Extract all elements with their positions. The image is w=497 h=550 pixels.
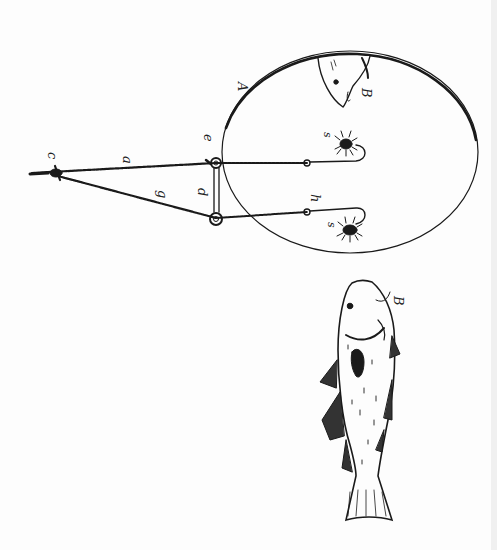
label-e: e bbox=[201, 134, 216, 142]
label-g: g bbox=[155, 190, 170, 198]
label-h: h bbox=[308, 194, 323, 202]
labels: A B B a c d e g h s s bbox=[45, 81, 406, 306]
label-s-lower: s bbox=[325, 222, 338, 228]
label-c: c bbox=[45, 152, 60, 160]
upper-line-a bbox=[32, 145, 365, 173]
label-a: a bbox=[120, 156, 135, 164]
bait-lower-s bbox=[337, 217, 362, 242]
label-A: A bbox=[235, 81, 250, 91]
patent-drawing: A B B a c d e g h s s bbox=[0, 0, 497, 550]
label-B-fish: B bbox=[391, 295, 406, 306]
bait-upper-s bbox=[335, 131, 357, 156]
label-B-top: B bbox=[359, 87, 374, 98]
label-d: d bbox=[195, 188, 210, 196]
knot-c bbox=[30, 166, 62, 180]
label-s-upper: s bbox=[321, 132, 334, 138]
fish-head-in-hoop bbox=[318, 56, 370, 107]
fish-B bbox=[320, 281, 400, 520]
